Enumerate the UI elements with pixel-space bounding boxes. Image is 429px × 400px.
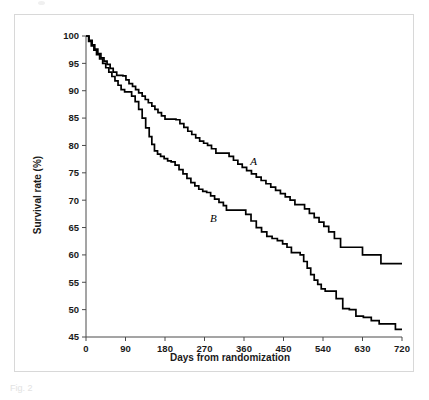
curve-a xyxy=(86,36,402,264)
y-tick-label: 45 xyxy=(68,331,79,342)
scan-speck-top xyxy=(38,1,45,5)
y-axis-title: Survival rate (%) xyxy=(32,156,43,234)
y-tick-label: 75 xyxy=(68,167,79,178)
y-tick-label: 95 xyxy=(68,58,79,69)
curve-lines xyxy=(86,36,402,329)
y-tick-label: 65 xyxy=(68,222,79,233)
x-tick-label: 630 xyxy=(355,343,371,354)
y-tick-label: 90 xyxy=(68,85,79,96)
y-tick-label: 50 xyxy=(68,304,79,315)
y-tick-label: 80 xyxy=(68,140,79,151)
y-tick-label: 70 xyxy=(68,195,79,206)
series-label-b: B xyxy=(210,212,217,224)
x-tick-label: 0 xyxy=(83,343,88,354)
y-tick-label: 60 xyxy=(68,249,79,260)
x-tick-label: 540 xyxy=(315,343,331,354)
x-axis-title: Days from randomization xyxy=(170,352,290,363)
figure-caption-fragment: Fig. 2 xyxy=(10,383,190,395)
x-tick-label: 720 xyxy=(394,343,410,354)
y-tick-label: 100 xyxy=(63,30,79,41)
figure-frame: 4550556065707580859095100 09018027036045… xyxy=(14,14,414,372)
y-axis: 4550556065707580859095100 xyxy=(63,30,86,342)
x-tick-label: 90 xyxy=(120,343,131,354)
y-tick-label: 55 xyxy=(68,277,79,288)
curve-b xyxy=(86,36,402,329)
y-tick-label: 85 xyxy=(68,112,79,123)
survival-curve-chart: 4550556065707580859095100 09018027036045… xyxy=(15,15,413,371)
series-label-a: A xyxy=(249,155,257,167)
